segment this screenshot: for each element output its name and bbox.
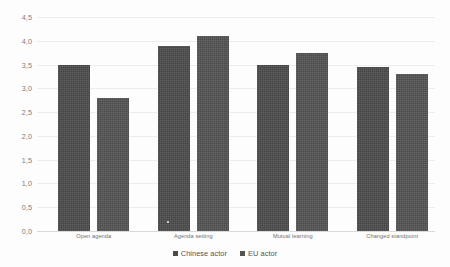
bar: [197, 36, 229, 231]
chart-legend: Chinese actorEU actor: [0, 249, 450, 258]
bar: [158, 46, 190, 231]
legend-entry[interactable]: Chinese actor: [173, 249, 227, 258]
x-tick-label: Open agenda: [76, 233, 111, 239]
scan-artifact-speck: [167, 221, 169, 223]
x-tick-label: Agenda setting: [174, 233, 213, 239]
bar: [296, 53, 328, 231]
bar: [357, 67, 389, 231]
bar-chart-figure: 0,00,51,01,52,02,53,03,54,04,5 Open agen…: [0, 0, 450, 267]
bar: [257, 65, 289, 231]
y-tick-label: 4,5: [22, 13, 32, 22]
square-marker-icon: [240, 251, 245, 256]
y-tick-label: 3,0: [22, 84, 32, 93]
y-tick-label: 0,0: [22, 227, 32, 236]
x-axis-category-labels: Open agendaAgenda settingMutual learning…: [37, 233, 435, 247]
y-tick-label: 2,0: [22, 131, 32, 140]
legend-label: EU actor: [248, 249, 277, 258]
y-tick-label: 1,0: [22, 179, 32, 188]
bars-layer: [37, 17, 435, 231]
axis-baseline: [37, 231, 435, 232]
y-tick-label: 1,5: [22, 155, 32, 164]
bar: [396, 74, 428, 231]
y-tick-label: 4,0: [22, 36, 32, 45]
x-tick-label: Changed standpoint: [366, 233, 418, 239]
bar: [97, 98, 129, 231]
bar: [58, 65, 90, 231]
y-tick-label: 0,5: [22, 203, 32, 212]
square-marker-icon: [173, 251, 178, 256]
y-axis: 0,00,51,01,52,02,53,03,54,04,5: [0, 0, 37, 267]
legend-entry[interactable]: EU actor: [240, 249, 277, 258]
x-tick-label: Mutual learning: [273, 233, 313, 239]
plot-area: [37, 17, 435, 231]
y-tick-label: 3,5: [22, 60, 32, 69]
legend-label: Chinese actor: [181, 249, 227, 258]
y-tick-label: 2,5: [22, 108, 32, 117]
